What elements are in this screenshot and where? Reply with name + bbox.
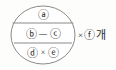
band-bottom: ⓓ × ⓔ — [11, 45, 75, 61]
token-operator-minus: — — [39, 30, 48, 38]
token-operator-multiply: × — [40, 49, 46, 57]
token-circled-a: ⓐ — [38, 10, 49, 21]
band-top: ⓐ — [11, 8, 75, 23]
token-circled-b: ⓑ — [26, 29, 37, 40]
multiplier-unit-counter: 개 — [96, 30, 106, 41]
figure-root: ⓐ ⓑ — ⓒ ⓓ × ⓔ × ⓕ 개 — [0, 0, 116, 70]
token-circled-e: ⓔ — [48, 48, 59, 59]
token-circled-f: ⓕ — [84, 30, 95, 41]
token-circled-c: ⓒ — [50, 29, 61, 40]
token-circled-d: ⓓ — [27, 48, 38, 59]
multiplier-expression: × ⓕ 개 — [78, 26, 106, 44]
band-middle: ⓑ — ⓒ — [11, 26, 75, 42]
multiplier-operator: × — [78, 31, 83, 40]
